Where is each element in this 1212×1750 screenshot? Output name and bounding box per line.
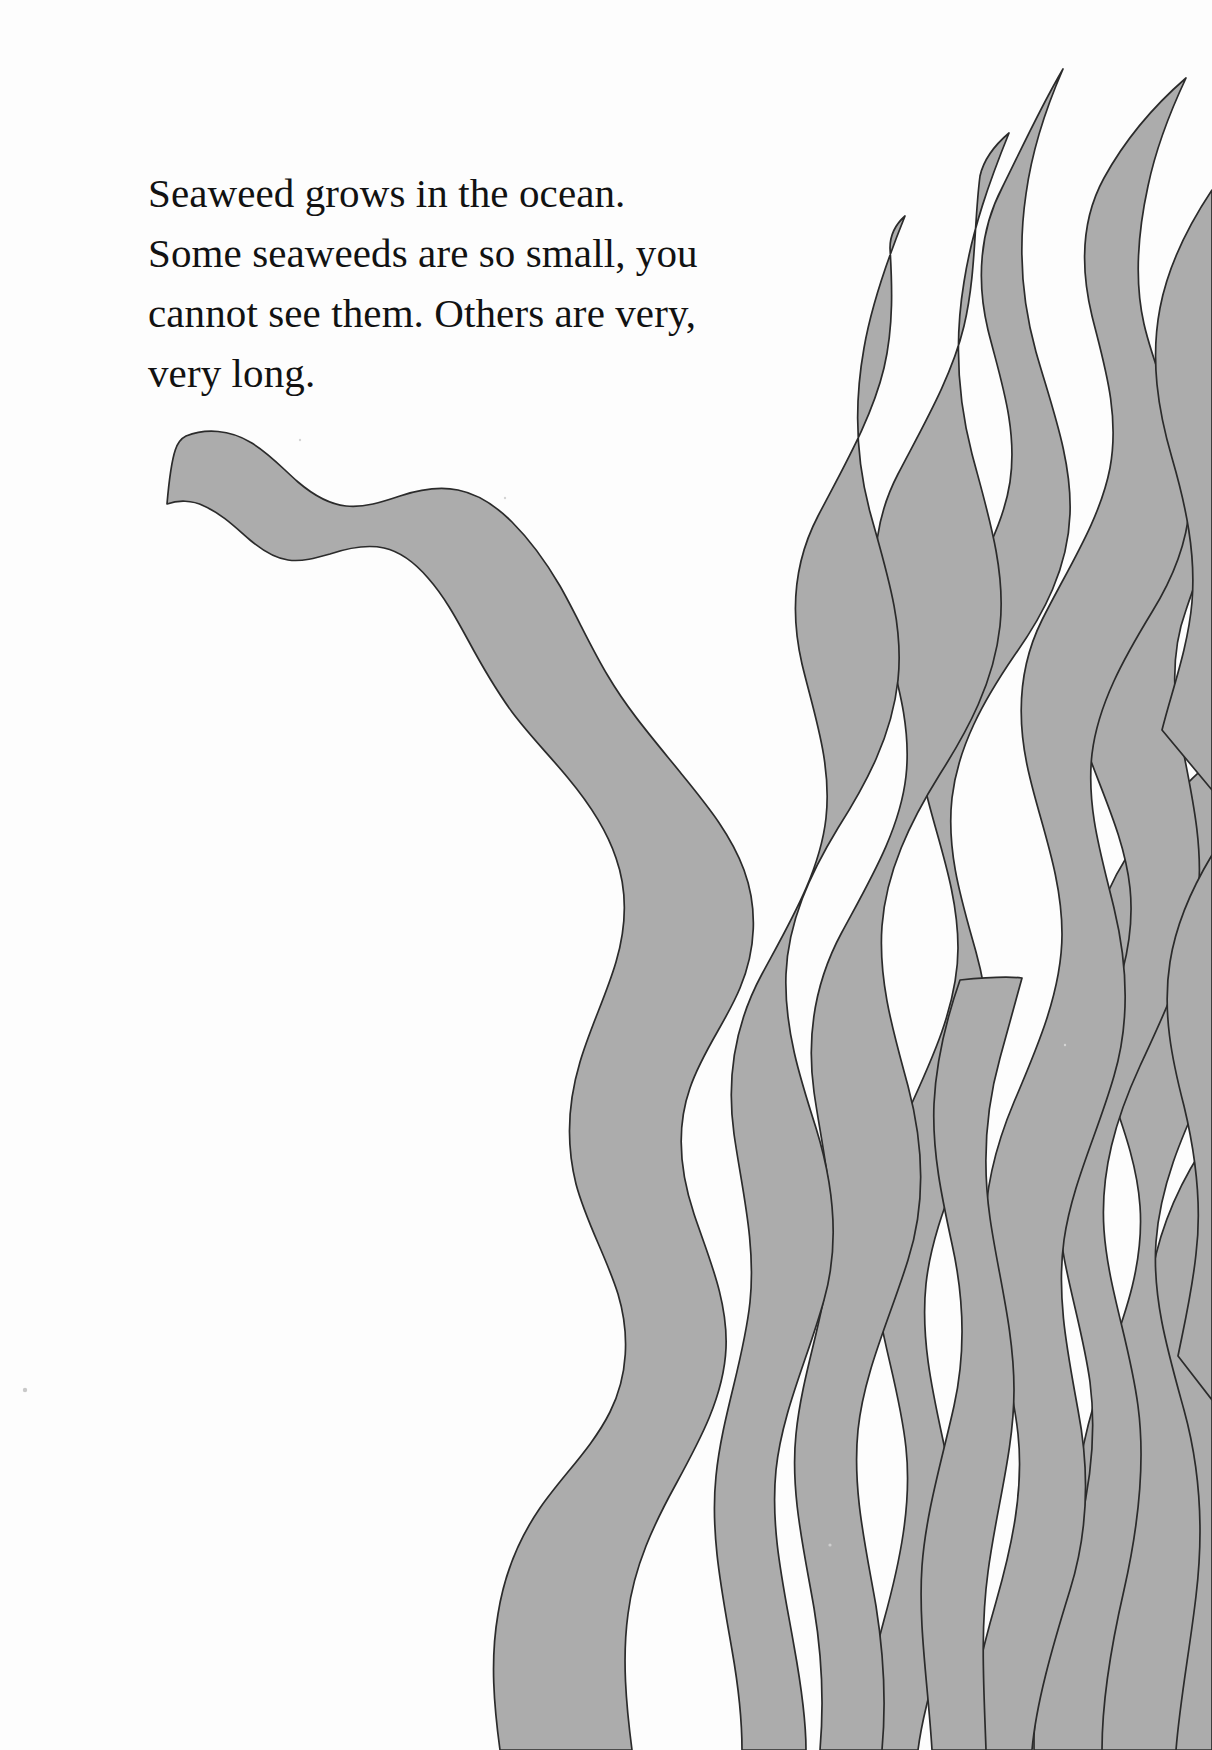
body-text-line-4: very long. [148,343,748,403]
speck [23,1388,27,1392]
speck [1064,1044,1066,1046]
speck [299,439,301,441]
seaweed-cluster-right [714,69,1212,1750]
book-page: .blade { fill: #acacac; stroke: #2b2b2b;… [0,0,1212,1750]
body-text-line-2: Some seaweeds are so small, you [148,223,748,283]
body-text-line-3: cannot see them. Others are very, [148,283,748,343]
body-text-line-1: Seaweed grows in the ocean. [148,163,748,223]
body-text-block: Seaweed grows in the ocean. Some seaweed… [148,163,748,403]
strand-isolated-left [167,431,753,1750]
speck [504,497,506,499]
seaweed-solitary-strand [167,431,753,1750]
speck [828,1543,831,1546]
